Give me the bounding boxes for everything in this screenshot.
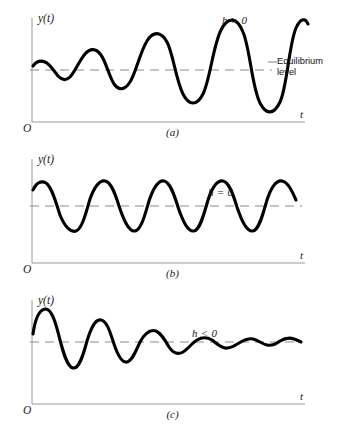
x-axis-label-a: t: [300, 108, 303, 120]
x-axis-label-c: t: [300, 390, 303, 402]
caption-b: (b): [0, 267, 345, 279]
equilibrium-label-line2: level: [277, 67, 296, 77]
panel-b: y(t) t O h = 0 (b): [0, 141, 345, 283]
parameter-label-a: h > 0: [222, 14, 247, 26]
panel-c: y(t) t O h < 0 (c): [0, 282, 345, 424]
equilibrium-level-label: Equilibrium level: [277, 56, 323, 77]
y-axis-label-a: y(t): [38, 12, 54, 25]
curve-growing-oscillation: [33, 20, 308, 112]
caption-a: (a): [0, 126, 345, 138]
y-axis-label-c: y(t): [38, 294, 54, 307]
parameter-label-b: h = 0: [208, 186, 233, 198]
y-axis-label-b: y(t): [38, 153, 54, 166]
panel-a: y(t) t O h > 0 Equilibrium level (a): [0, 0, 345, 142]
curve-damped-oscillation: [33, 309, 301, 368]
oscillation-figure: y(t) t O h > 0 Equilibrium level (a) y(t…: [0, 0, 345, 425]
parameter-label-c: h < 0: [192, 327, 217, 339]
x-axis-label-b: t: [300, 249, 303, 261]
equilibrium-label-line1: Equilibrium: [277, 56, 323, 66]
caption-c: (c): [0, 408, 345, 420]
